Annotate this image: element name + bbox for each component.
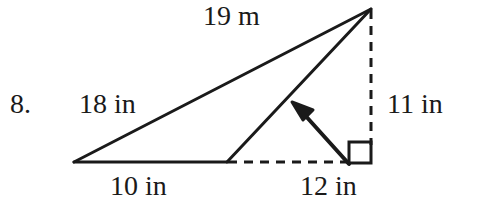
problem-number: 8. bbox=[10, 90, 31, 118]
pointer-arrow-head-icon bbox=[292, 102, 313, 120]
edge-mid-vertex-to-apex bbox=[227, 9, 371, 162]
label-left-side: 18 in bbox=[79, 90, 136, 118]
right-angle-square-icon bbox=[349, 142, 371, 163]
label-top-side: 19 m bbox=[203, 2, 260, 30]
geometry-figure: 8. 19 m 18 in 11 in 10 in 12 in bbox=[0, 0, 486, 209]
label-right-side: 11 in bbox=[387, 90, 443, 118]
label-base-left: 10 in bbox=[110, 172, 167, 200]
label-base-right: 12 in bbox=[300, 172, 357, 200]
pointer-arrow-shaft bbox=[303, 113, 349, 164]
